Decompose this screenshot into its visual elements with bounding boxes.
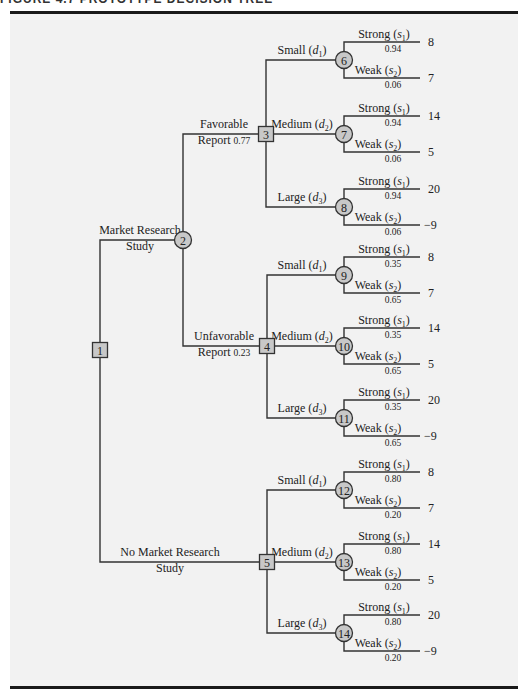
branch-strong (344, 42, 420, 60)
label-weak: Weak (s2) (355, 421, 402, 437)
label-strong: Strong (s1) (358, 27, 410, 43)
branch-strong (344, 116, 420, 134)
chance-node-label: 9 (341, 269, 347, 283)
label-strong: Strong (s1) (358, 457, 410, 473)
chance-node-label: 8 (341, 201, 347, 215)
label-small-decision: Small (d1) (278, 473, 327, 489)
label-strong: Strong (s1) (358, 174, 410, 190)
payoff-strong: 8 (428, 250, 434, 264)
payoff-weak: 7 (428, 501, 434, 515)
label-market-research-study: Study (126, 239, 154, 253)
chance-node-label: 12 (338, 484, 350, 498)
decision-node-label: 5 (264, 556, 270, 570)
payoff-strong: 20 (428, 182, 440, 196)
prob-strong: 0.94 (385, 118, 402, 128)
prob-weak: 0.65 (385, 438, 402, 448)
label-small-decision: Small (d1) (278, 258, 327, 274)
label-strong: Strong (s1) (358, 385, 410, 401)
payoff-strong: 8 (428, 35, 434, 49)
payoff-weak: 5 (428, 357, 434, 371)
payoff-strong: 14 (428, 321, 440, 335)
prob-weak: 0.06 (385, 154, 402, 164)
payoff-weak: −9 (424, 429, 437, 443)
label-large-decision: Large (d3) (278, 401, 327, 417)
prob-strong: 0.35 (385, 330, 402, 340)
prob-strong: 0.80 (385, 546, 402, 556)
label-weak: Weak (s2) (355, 210, 402, 226)
label-weak: Weak (s2) (355, 63, 402, 79)
label-weak: Weak (s2) (355, 349, 402, 365)
decision-node-label: 4 (264, 340, 270, 354)
prob-weak: 0.06 (385, 227, 402, 237)
chance-node-label: 6 (341, 54, 347, 68)
label-medium-decision: Medium (d2) (271, 545, 333, 561)
prob-weak: 0.20 (385, 582, 402, 592)
chance-node-label: 13 (338, 556, 350, 570)
payoff-weak: 5 (428, 573, 434, 587)
prob-weak: 0.65 (385, 366, 402, 376)
branch-no-market-research (100, 350, 267, 562)
label-weak: Weak (s2) (355, 137, 402, 153)
chance-node-label: 14 (338, 627, 350, 641)
prob-strong: 0.80 (385, 474, 402, 484)
branch-strong (344, 400, 420, 418)
decision-node-label: 3 (263, 128, 269, 142)
label-no-market-research: No Market Research (120, 545, 219, 559)
payoff-weak: −9 (424, 644, 437, 658)
payoff-weak: 7 (428, 286, 434, 300)
label-favorable: Favorable (200, 117, 248, 131)
label-strong: Strong (s1) (358, 313, 410, 329)
label-strong: Strong (s1) (358, 242, 410, 258)
label-small-decision: Small (d1) (278, 43, 327, 59)
branch-strong (344, 189, 420, 207)
label-weak: Weak (s2) (355, 636, 402, 652)
chance-node-label: 2 (180, 234, 186, 248)
prob-strong: 0.35 (385, 259, 402, 269)
branch-strong (344, 472, 420, 490)
label-large-decision: Large (d3) (278, 190, 327, 206)
decision-node-label: 1 (97, 344, 103, 358)
decision-tree: Market ResearchStudyNo Market ResearchSt… (0, 0, 530, 693)
label-market-research: Market Research (99, 223, 181, 237)
payoff-strong: 20 (428, 608, 440, 622)
payoff-strong: 8 (428, 465, 434, 479)
payoff-strong: 20 (428, 393, 440, 407)
branch-strong (344, 328, 420, 346)
label-favorable-report: Report 0.77 (198, 133, 251, 147)
label-unfavorable-report: Report 0.23 (198, 345, 251, 359)
branch-market-research (100, 240, 183, 350)
prob-strong: 0.94 (385, 44, 402, 54)
prob-strong: 0.80 (385, 617, 402, 627)
branch-strong (344, 544, 420, 562)
label-weak: Weak (s2) (355, 493, 402, 509)
label-no-market-research-study: Study (156, 561, 184, 575)
prob-weak: 0.20 (385, 653, 402, 663)
prob-strong: 0.94 (385, 191, 402, 201)
prob-weak: 0.06 (385, 80, 402, 90)
chance-node-label: 10 (338, 340, 350, 354)
label-strong: Strong (s1) (358, 529, 410, 545)
label-strong: Strong (s1) (358, 600, 410, 616)
label-medium-decision: Medium (d2) (271, 117, 333, 133)
chance-node-label: 11 (338, 412, 350, 426)
label-strong: Strong (s1) (358, 101, 410, 117)
payoff-strong: 14 (428, 537, 440, 551)
label-large-decision: Large (d3) (278, 616, 327, 632)
branch-favorable-report (183, 134, 266, 240)
payoff-weak: −9 (424, 218, 437, 232)
payoff-weak: 7 (428, 71, 434, 85)
payoff-weak: 5 (428, 145, 434, 159)
chance-node-label: 7 (341, 128, 347, 142)
label-weak: Weak (s2) (355, 565, 402, 581)
label-medium-decision: Medium (d2) (271, 329, 333, 345)
label-unfavorable: Unfavorable (194, 329, 254, 343)
prob-strong: 0.35 (385, 402, 402, 412)
branch-strong (344, 257, 420, 275)
label-weak: Weak (s2) (355, 278, 402, 294)
payoff-strong: 14 (428, 109, 440, 123)
prob-weak: 0.65 (385, 295, 402, 305)
branch-strong (344, 615, 420, 633)
prob-weak: 0.20 (385, 510, 402, 520)
